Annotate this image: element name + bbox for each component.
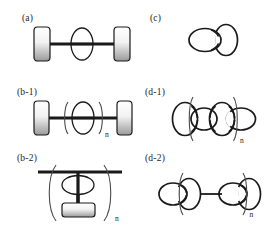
interlock-gap-mask-3 — [227, 112, 230, 126]
stopper-right — [117, 101, 132, 135]
repeat-paren-open — [179, 173, 183, 215]
catenane-ring-right — [215, 25, 238, 56]
panel-a-artwork — [30, 22, 134, 66]
panel-b-1: (b-1) — [0, 75, 136, 150]
stopper-left — [34, 27, 50, 61]
repeat-subscript-n: n — [115, 214, 119, 223]
stopper-bottom — [62, 203, 95, 217]
stopper-right — [114, 27, 130, 61]
repeat-subscript-n: n — [240, 136, 244, 145]
catenane-over-arc-right-bottom — [239, 195, 247, 204]
panel-b-2: (b-2) — [0, 150, 136, 226]
panel-c: (c) — [136, 0, 272, 75]
interlock-gap-mask-left — [177, 187, 178, 201]
catenane-over-arc-left-bottom — [179, 195, 187, 204]
panel-d-1: (d-1) — [136, 75, 272, 150]
panel-a: (a) — [0, 0, 136, 75]
catenane-ring-4 — [238, 179, 261, 210]
panel-d2-label: (d-2) — [145, 154, 165, 164]
catenane-over-arc-left-top — [179, 185, 187, 194]
catenane-ring-2 — [178, 179, 201, 210]
panel-d-2: (d-2) n — [136, 150, 272, 226]
repeat-subscript-n: n — [250, 210, 254, 219]
interlock-gap-mask-right — [237, 187, 238, 201]
panel-d2-artwork: n — [154, 168, 270, 220]
panel-b2-artwork: n — [34, 163, 134, 225]
interlock-gap-mask — [214, 33, 215, 48]
figure-root: (a) — [0, 0, 272, 226]
interlock-gap-mask-2 — [211, 113, 214, 126]
catenane-ring-4 — [227, 108, 256, 130]
stopper-left — [34, 101, 49, 135]
repeat-subscript-n: n — [105, 130, 109, 139]
panel-c-label: (c) — [150, 14, 161, 24]
panel-d1-artwork: n — [160, 91, 268, 147]
catenane-over-arc-right-top — [239, 185, 247, 194]
panel-b1-artwork: n — [30, 96, 136, 144]
panel-c-artwork — [178, 20, 256, 60]
